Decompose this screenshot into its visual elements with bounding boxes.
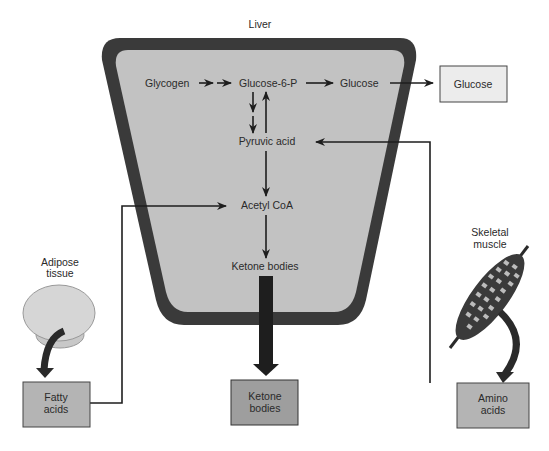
adipose-tissue-icon [23, 285, 95, 378]
adipose-label-2: tissue [46, 267, 74, 279]
liver-title: Liver [249, 18, 272, 30]
ketone-box-label-2: bodies [250, 402, 281, 414]
ketone-box-label-1: Ketone [248, 390, 281, 402]
skeletal-label-2: muscle [473, 238, 506, 250]
liver-metabolism-diagram: Liver Glycogen Glucose-6-P Glucose Pyruv… [0, 0, 549, 451]
amino-acids-label-1: Amino [478, 392, 508, 404]
fatty-acids-label-1: Fatty [44, 391, 68, 403]
glucose-box: Glucose [440, 66, 507, 102]
node-pyruvic-acid: Pyruvic acid [239, 135, 296, 147]
skeletal-label-1: Skeletal [471, 226, 508, 238]
node-glucose-6-p: Glucose-6-P [239, 77, 297, 89]
amino-acids-box: Amino acids [457, 383, 529, 428]
node-ketone-bodies: Ketone bodies [231, 260, 298, 272]
fatty-acids-box: Fatty acids [23, 382, 90, 427]
ketone-bodies-box: Ketone bodies [231, 380, 298, 425]
amino-acids-label-2: acids [481, 404, 506, 416]
skeletal-muscle-icon [444, 245, 535, 383]
fatty-acids-label-2: acids [44, 403, 69, 415]
node-glycogen: Glycogen [145, 77, 190, 89]
node-acetyl-coa: Acetyl CoA [241, 199, 293, 211]
node-glucose-internal: Glucose [340, 77, 379, 89]
glucose-box-label: Glucose [454, 78, 493, 90]
